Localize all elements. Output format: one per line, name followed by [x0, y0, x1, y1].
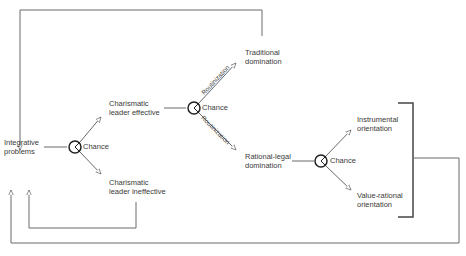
- node-traditional-domination: Traditional domination: [245, 48, 282, 66]
- label-line: domination: [245, 161, 291, 170]
- chance-node-3: Chance: [330, 156, 356, 165]
- feedback-traditional: [20, 10, 262, 150]
- label-line: Charismatic: [109, 178, 166, 187]
- chance-node-1: Chance: [83, 142, 109, 151]
- label-line: domination: [245, 57, 282, 66]
- node-value-rational-orientation: Value-rational orientation: [357, 191, 403, 209]
- label-line: Rational-legal: [245, 152, 291, 161]
- node-rational-legal-domination: Rational-legal domination: [245, 152, 291, 170]
- node-instrumental-orientation: Instrumental orientation: [357, 115, 398, 133]
- label-line: leader effective: [109, 108, 160, 117]
- label-line: orientation: [357, 124, 398, 133]
- label-line: problems: [4, 147, 39, 156]
- chance-node-2: Chance: [202, 103, 228, 112]
- label-line: leader ineffective: [109, 187, 166, 196]
- label-line: Integrative: [4, 138, 39, 147]
- node-charismatic-effective: Charismatic leader effective: [109, 99, 160, 117]
- label-line: Value-rational: [357, 191, 403, 200]
- node-charismatic-ineffective: Charismatic leader ineffective: [109, 178, 166, 196]
- label-line: Charismatic: [109, 99, 160, 108]
- label-line: Instrumental: [357, 115, 398, 124]
- node-integrative-problems: Integrative problems: [4, 138, 39, 156]
- label-line: Traditional: [245, 48, 282, 57]
- label-line: orientation: [357, 200, 403, 209]
